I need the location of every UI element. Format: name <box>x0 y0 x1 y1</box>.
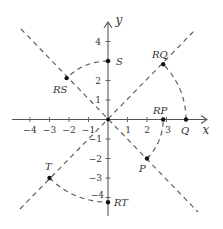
y-tick-label: −4 <box>91 190 105 200</box>
x-tick-label: −3 <box>43 125 57 135</box>
label-rq: RQ <box>151 49 168 60</box>
label-p: P <box>138 163 146 174</box>
label-rp: RP <box>152 105 168 116</box>
point-rq <box>161 62 165 66</box>
point-p <box>145 156 149 160</box>
y-tick-label: −2 <box>89 154 102 164</box>
arc-s-to-rs <box>67 61 108 78</box>
x-tick-label: −2 <box>62 125 75 135</box>
label-t: T <box>45 161 53 172</box>
x-tick-label: −4 <box>23 125 37 135</box>
x-tick-label: 2 <box>144 125 150 135</box>
y-axis-label: y <box>115 13 123 27</box>
y-tick-label: 2 <box>95 76 101 86</box>
point-t <box>47 176 51 180</box>
x-axis-label: x <box>203 123 210 137</box>
x-tick-label: 1 <box>125 125 131 135</box>
y-tick-label: −3 <box>89 173 103 183</box>
y-tick-label: −1 <box>89 134 102 144</box>
y-tick-label: 4 <box>95 37 101 47</box>
point-rp <box>161 117 165 121</box>
y-axis: 4 2 1 −1 −2 −3 −4 y <box>89 13 123 216</box>
label-rs: RS <box>52 84 68 95</box>
point-rt <box>106 200 110 204</box>
point-q <box>184 117 188 121</box>
rotation-diagram: −4 −3 −2 −1 1 2 3 x 4 2 1 −1 −2 −3 −4 y <box>0 0 223 229</box>
x-axis: −4 −3 −2 −1 1 2 3 x <box>12 116 210 138</box>
point-s <box>106 59 110 63</box>
label-q: Q <box>181 125 189 136</box>
label-rt: RT <box>113 197 129 208</box>
y-tick-label: 1 <box>95 95 101 105</box>
point-origin <box>106 118 110 122</box>
point-rs <box>64 76 68 80</box>
x-tick-label: 3 <box>165 125 171 135</box>
label-s: S <box>116 56 123 67</box>
